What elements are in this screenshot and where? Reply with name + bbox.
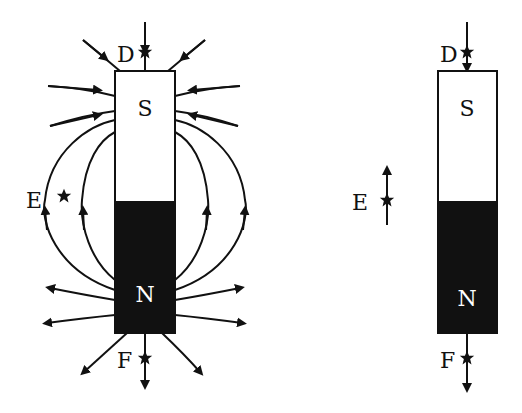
left-point-e-label: E bbox=[26, 188, 42, 213]
left-figure bbox=[44, 22, 246, 385]
right-point-d-label: D bbox=[440, 42, 458, 67]
left-point-f-label: F bbox=[117, 348, 132, 373]
right-figure bbox=[387, 22, 497, 388]
right-magnet-north bbox=[438, 202, 497, 333]
magnet-field-diagram: S N D E F S N D E F bbox=[0, 0, 522, 413]
left-point-d-label: D bbox=[117, 42, 135, 67]
left-magnet-south bbox=[115, 71, 175, 202]
right-magnet-south bbox=[438, 71, 497, 202]
left-magnet-north bbox=[115, 202, 175, 333]
right-point-e-label: E bbox=[352, 190, 368, 215]
left-south-label: S bbox=[137, 96, 152, 121]
right-point-f-label: F bbox=[440, 348, 455, 373]
left-point-e-star-icon bbox=[57, 189, 71, 203]
right-south-label: S bbox=[459, 96, 474, 121]
right-north-label: N bbox=[457, 286, 476, 311]
left-north-label: N bbox=[135, 282, 154, 307]
